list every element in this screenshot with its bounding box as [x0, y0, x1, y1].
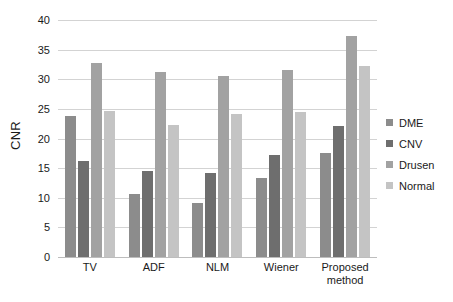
bar[interactable] — [155, 72, 166, 257]
bar-groups — [58, 20, 377, 257]
bar[interactable] — [65, 116, 76, 257]
x-axis-tick-labels: TVADFNLMWienerProposed method — [58, 261, 377, 287]
bar-group — [249, 20, 313, 257]
bar[interactable] — [142, 171, 153, 257]
y-axis-tick-label: 40 — [38, 14, 50, 26]
y-axis-tick-labels: 0510152025303540 — [26, 20, 54, 257]
x-axis-tick-label: NLM — [186, 261, 250, 287]
y-axis-tick-label: 35 — [38, 44, 50, 56]
bar[interactable] — [129, 194, 140, 257]
x-axis-tick-label: Wiener — [249, 261, 313, 287]
bar[interactable] — [346, 36, 357, 257]
legend-swatch-icon — [386, 182, 393, 189]
plot-area — [58, 20, 377, 257]
y-axis-tick-label: 0 — [44, 251, 50, 263]
bar-group — [186, 20, 250, 257]
legend-item-label: Drusen — [399, 159, 434, 171]
bar[interactable] — [269, 155, 280, 257]
cnr-bar-chart: CNR 0510152025303540 TVADFNLMWienerPropo… — [0, 0, 453, 302]
bar[interactable] — [320, 153, 331, 257]
bar[interactable] — [256, 178, 267, 257]
bar[interactable] — [231, 114, 242, 257]
bar[interactable] — [91, 63, 102, 257]
bar[interactable] — [282, 70, 293, 257]
legend: DMECNVDrusenNormal — [386, 112, 450, 196]
y-axis-tick-label: 20 — [38, 133, 50, 145]
bar-group — [313, 20, 377, 257]
x-axis-tick-label: ADF — [122, 261, 186, 287]
legend-item-cnv[interactable]: CNV — [386, 133, 450, 154]
bar[interactable] — [333, 126, 344, 257]
y-axis-title: CNR — [2, 0, 28, 270]
legend-item-label: Normal — [399, 180, 434, 192]
y-axis-title-label: CNR — [8, 121, 23, 150]
legend-item-drusen[interactable]: Drusen — [386, 154, 450, 175]
legend-swatch-icon — [386, 119, 393, 126]
gridline — [58, 257, 377, 258]
y-axis-tick-label: 25 — [38, 103, 50, 115]
bar[interactable] — [104, 111, 115, 257]
bar[interactable] — [359, 66, 370, 257]
y-axis-tick-label: 30 — [38, 73, 50, 85]
legend-item-normal[interactable]: Normal — [386, 175, 450, 196]
legend-swatch-icon — [386, 140, 393, 147]
bar-group — [122, 20, 186, 257]
legend-item-dme[interactable]: DME — [386, 112, 450, 133]
bar[interactable] — [168, 125, 179, 257]
bar[interactable] — [205, 173, 216, 257]
legend-item-label: DME — [399, 117, 423, 129]
bar-group — [58, 20, 122, 257]
y-axis-tick-label: 10 — [38, 192, 50, 204]
bar[interactable] — [218, 76, 229, 257]
x-axis-tick-label: Proposed method — [313, 261, 377, 287]
y-axis-tick-label: 15 — [38, 162, 50, 174]
y-axis-tick-label: 5 — [44, 221, 50, 233]
bar[interactable] — [192, 203, 203, 258]
bar[interactable] — [295, 112, 306, 257]
legend-item-label: CNV — [399, 138, 422, 150]
legend-swatch-icon — [386, 161, 393, 168]
bar[interactable] — [78, 161, 89, 257]
x-axis-tick-label: TV — [58, 261, 122, 287]
